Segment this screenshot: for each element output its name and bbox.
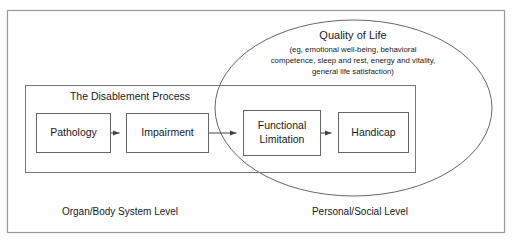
stage-label-functional-limitation-line-2: Limitation: [260, 133, 305, 145]
quality-of-life-subtitle-line-3: general life satisfaction): [312, 67, 394, 76]
disablement-process-diagram: Quality of Life (eg, emotional well-bein…: [0, 0, 516, 243]
level-label-organ-body-system: Organ/Body System Level: [62, 206, 178, 217]
stage-label-pathology: Pathology: [50, 126, 97, 138]
diagram-canvas: Quality of Life (eg, emotional well-bein…: [0, 0, 516, 243]
quality-of-life-subtitle-line-1: (eg, emotional well-being, behavioral: [290, 45, 417, 54]
disablement-process-title: The Disablement Process: [70, 90, 190, 102]
level-label-personal-social: Personal/Social Level: [312, 206, 408, 217]
stage-label-handicap: Handicap: [351, 126, 396, 138]
stage-label-impairment: Impairment: [141, 126, 194, 138]
quality-of-life-title: Quality of Life: [319, 29, 386, 41]
quality-of-life-subtitle-line-2: competence, sleep and rest, energy and v…: [271, 56, 436, 65]
stage-label-functional-limitation-line-1: Functional: [258, 119, 306, 131]
outer-frame: [8, 11, 505, 233]
